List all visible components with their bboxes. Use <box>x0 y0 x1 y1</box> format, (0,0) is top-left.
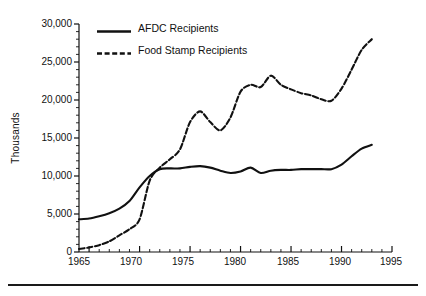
chart-figure: Thousands 30,000 25,000 20,000 15,000 10… <box>0 0 426 296</box>
footer-divider <box>8 284 418 286</box>
legend-swatch-dashed-icon <box>97 45 131 56</box>
chart-legend: AFDC Recipients Food Stamp Recipients <box>97 17 287 61</box>
legend-label: AFDC Recipients <box>138 22 219 34</box>
legend-item-food-stamp-recipients: Food Stamp Recipients <box>97 39 287 61</box>
legend-label: Food Stamp Recipients <box>138 44 247 56</box>
y-tick-marks <box>74 24 79 252</box>
legend-swatch-solid-icon <box>97 23 131 34</box>
x-tick-marks <box>89 246 392 252</box>
series-line-food-stamp-recipients <box>79 39 372 249</box>
series-line-afdc-recipients <box>79 145 372 219</box>
legend-item-afdc-recipients: AFDC Recipients <box>97 17 287 39</box>
